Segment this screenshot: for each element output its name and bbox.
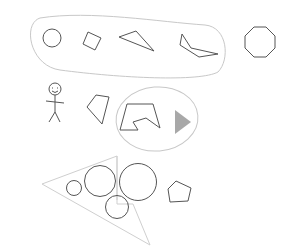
quadrilateral-shape [87, 95, 109, 124]
filled-triangle-shape [175, 110, 191, 134]
diagram-canvas [0, 0, 293, 252]
square-shape [83, 32, 101, 50]
concave-polygon-shape [180, 34, 218, 57]
pentagon-shape [168, 181, 191, 202]
stick-figure [46, 83, 64, 122]
top-group-outline [30, 15, 225, 78]
concave-hexagon-shape [120, 104, 160, 130]
small-circle-shape [67, 181, 82, 196]
circle-shape [43, 29, 61, 47]
medium-circle-shape [85, 166, 116, 197]
large-circle-shape [120, 164, 157, 201]
octagon-shape [245, 27, 275, 57]
triangle-shape [119, 31, 154, 51]
